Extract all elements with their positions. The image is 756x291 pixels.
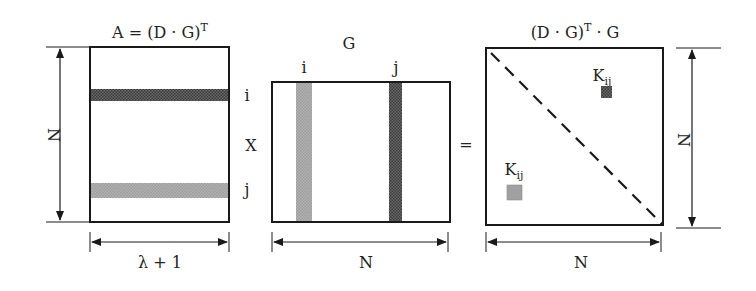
matrix-product-diagram: A = (D · G)T N λ + 1 i j X G i j N = (0, 0, 756, 291)
block-lower-kij (507, 185, 522, 200)
matrix-result-height-label: N (674, 133, 693, 147)
matrix-a-title: A = (D · G)T (111, 21, 208, 42)
matrix-a-row-i-label: i (244, 86, 249, 105)
matrix-a-width-label: λ + 1 (138, 253, 182, 272)
matrix-g-title: G (343, 34, 356, 53)
matrix-a-height-label: N (44, 128, 63, 142)
matrix-result-title: (D · G)T · G (531, 21, 620, 42)
block-lower-label: Kij (505, 160, 524, 182)
matrix-g-col-j-band (389, 82, 402, 222)
block-upper-kij (601, 86, 612, 98)
matrix-g-width-label: N (359, 253, 373, 272)
matrix-g-col-i-label: i (301, 58, 306, 77)
matrix-g: G i j N (272, 34, 450, 272)
matrix-result: (D · G)T · G Kij Kij N N (486, 21, 721, 272)
times-operator: X (245, 136, 257, 155)
matrix-a-row-i-band (90, 89, 229, 101)
matrix-a: A = (D · G)T N λ + 1 i j (44, 21, 250, 272)
matrix-a-row-j-band (90, 183, 229, 198)
matrix-a-row-j-label: j (243, 180, 250, 199)
matrix-g-col-j-label: j (392, 58, 399, 77)
matrix-result-width-label: N (574, 253, 588, 272)
equals-operator: = (459, 135, 472, 154)
block-upper-label: Kij (593, 66, 612, 88)
matrix-g-col-i-band (296, 82, 312, 222)
